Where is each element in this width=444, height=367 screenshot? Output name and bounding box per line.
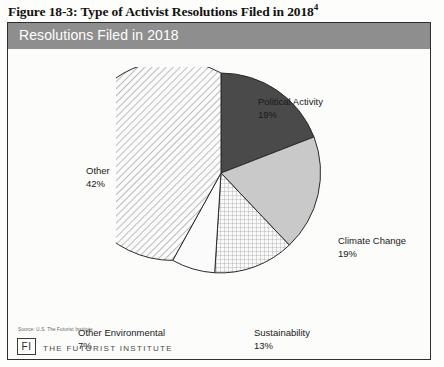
footer-brand-text: THE FUTURIST INSTITUTE <box>43 344 173 353</box>
figure-caption: Figure 18-3: Type of Activist Resolution… <box>8 2 438 20</box>
pie-label-climate-change-name: Climate Change <box>338 235 406 246</box>
pie-label-political-activity: Political Activity 19% <box>258 95 323 121</box>
chart-title: Resolutions Filed in 2018 <box>19 27 179 43</box>
futurist-institute-logo: FI <box>17 338 36 355</box>
figure-caption-text: Figure 18-3: Type of Activist Resolution… <box>8 4 314 19</box>
pie-label-political-activity-name: Political Activity <box>258 96 323 107</box>
chart-footer: FI THE FUTURIST INSTITUTE <box>8 333 430 359</box>
pie-label-other-name: Other <box>86 165 110 176</box>
chart-card: Resolutions Filed in 2018 <box>7 22 431 360</box>
pie-label-political-activity-pct: 19% <box>258 108 323 121</box>
pie-label-other-pct: 42% <box>86 177 110 190</box>
pie-chart-area: Political Activity 19% Climate Change 19… <box>8 49 430 334</box>
pie-label-other: Other 42% <box>86 164 110 190</box>
figure-caption-superscript: 4 <box>314 2 318 12</box>
source-note: Source: U.S. The Futurist Institute <box>18 327 93 332</box>
chart-card-header: Resolutions Filed in 2018 <box>8 23 430 49</box>
pie-label-climate-change-pct: 19% <box>338 247 406 260</box>
pie-label-climate-change: Climate Change 19% <box>338 234 406 260</box>
figure-page: Figure 18-3: Type of Activist Resolution… <box>0 0 444 367</box>
